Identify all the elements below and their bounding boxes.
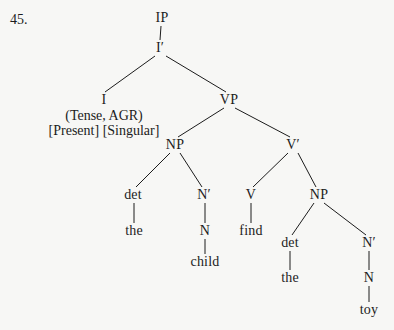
tree-node-NP1: NP <box>166 138 184 152</box>
tree-node-child: child <box>191 255 220 269</box>
tree-edge-Ibar-to-VP <box>166 56 226 92</box>
tree-edge-NP2-to-Nbar2 <box>324 203 366 235</box>
tree-edge-NP1-to-det1 <box>136 153 170 187</box>
tree-node-det1: det <box>124 188 142 202</box>
tree-node-N1: N <box>200 224 210 238</box>
tree-node-toy: toy <box>360 303 379 317</box>
tree-node-I: I <box>102 93 107 107</box>
annotation-infl-features: (Tense, AGR) <box>65 109 143 123</box>
tree-node-NP2: NP <box>310 188 328 202</box>
tree-node-N2: N <box>364 271 374 285</box>
tree-edge-NP2-to-det2 <box>292 203 314 235</box>
tree-node-the1: the <box>125 224 143 238</box>
tree-node-Ibar: I′ <box>156 41 164 55</box>
tree-node-the2: the <box>281 271 299 285</box>
tree-edge-Ibar-to-I <box>105 56 155 92</box>
tree-node-Vbar: V′ <box>286 138 300 152</box>
tree-node-Nbar2: N′ <box>362 236 376 250</box>
tree-node-find: find <box>239 224 262 238</box>
annotation-infl-values: [Present] [Singular] <box>49 124 160 138</box>
tree-edge-Vbar-to-NP2 <box>298 153 316 187</box>
tree-node-IP: IP <box>156 11 169 25</box>
tree-edge-IP-to-Ibar <box>160 26 161 40</box>
tree-edge-VP-to-NP1 <box>178 108 224 137</box>
tree-edge-Vbar-to-V <box>253 153 288 187</box>
syntax-tree-figure: 45. IPI′IVPNPV′detN′VNPtheNfinddetN′chil… <box>0 0 394 330</box>
tree-edge-NP1-to-Nbar1 <box>180 153 202 187</box>
tree-node-V: V <box>246 188 256 202</box>
tree-branch-lines <box>0 0 394 330</box>
tree-edge-VP-to-Vbar <box>235 108 290 137</box>
tree-node-Nbar1: N′ <box>197 188 211 202</box>
tree-node-VP: VP <box>220 93 238 107</box>
tree-node-det2: det <box>281 236 299 250</box>
